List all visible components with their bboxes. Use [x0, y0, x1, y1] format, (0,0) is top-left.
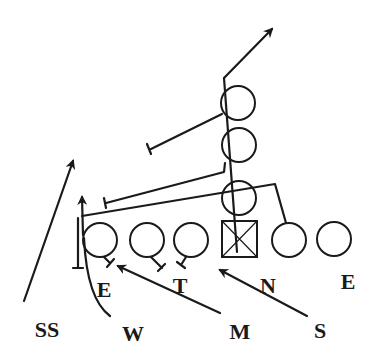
label-s: S — [314, 318, 326, 343]
block-lg2 — [177, 257, 186, 268]
block-back2-left — [106, 163, 225, 203]
label-e-right: E — [341, 269, 356, 294]
route-te-vertical — [82, 197, 83, 235]
m-arrow — [118, 266, 220, 313]
label-t: T — [173, 273, 188, 298]
te-block-bracket — [73, 218, 83, 268]
back-circle-3 — [222, 181, 256, 215]
block-tee-2 — [104, 198, 106, 208]
label-n: N — [260, 273, 276, 298]
lineman-lg2 — [174, 223, 208, 257]
label-m: M — [230, 319, 251, 344]
label-ss: SS — [35, 317, 59, 342]
block-lt — [104, 257, 114, 267]
center-square — [222, 221, 257, 257]
play-diagram: E T N E SS W M S — [0, 0, 383, 362]
lineman-rt — [317, 222, 351, 256]
label-w: W — [122, 321, 144, 346]
block-lg — [151, 257, 165, 271]
ss-arrow — [24, 161, 73, 301]
back-circle-2 — [222, 128, 256, 162]
lineman-rg — [272, 223, 306, 257]
route-back-deep-arrow — [224, 29, 272, 78]
label-e-left: E — [97, 277, 112, 302]
lineman-lg — [130, 223, 164, 257]
block-back1-left — [151, 114, 222, 149]
lineman-lt — [83, 223, 117, 257]
